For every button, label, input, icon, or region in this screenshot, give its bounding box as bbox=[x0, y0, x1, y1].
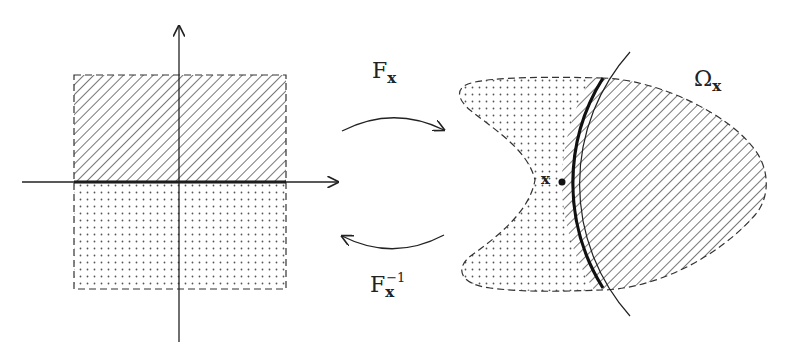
inverse-map-superscript: −1 bbox=[386, 270, 405, 285]
inverse-map-base: F bbox=[370, 272, 385, 297]
inverse-map-subscript: x bbox=[385, 283, 394, 301]
point-x-text: x bbox=[541, 170, 550, 188]
forward-map-arrow bbox=[342, 118, 444, 131]
forward-map-base: F bbox=[372, 58, 387, 83]
diagram-canvas bbox=[0, 0, 796, 358]
upper-hatched-region bbox=[74, 75, 286, 182]
point-x-label: x bbox=[541, 170, 550, 188]
inverse-map-arrow bbox=[342, 235, 444, 249]
lower-dotted-region bbox=[74, 183, 286, 289]
omega-label: Ωx bbox=[694, 66, 721, 91]
omega-base: Ω bbox=[694, 66, 712, 91]
omega-subscript: x bbox=[712, 77, 721, 95]
point-x-marker bbox=[559, 179, 566, 186]
inverse-map-label: Fx−1 bbox=[370, 272, 405, 297]
left-domain bbox=[22, 26, 338, 342]
forward-map-subscript: x bbox=[387, 69, 396, 87]
forward-map-label: Fx bbox=[372, 58, 396, 83]
